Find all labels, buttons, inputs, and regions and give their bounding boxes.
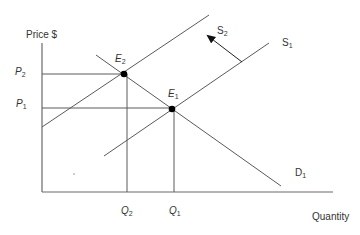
equilibrium-point-e2 [121,71,128,78]
equilibrium-label-e2: E2 [115,54,126,65]
price-label-p1: P1 [16,99,27,110]
shift-arrow-icon [208,36,242,62]
y-axis-label: Price $ [26,30,57,40]
supply-label-s2: S2 [217,26,228,37]
supply-label-s1: S1 [282,38,293,49]
equilibrium-label-e1: E1 [168,89,179,100]
equilibrium-point-e1 [169,106,176,113]
stray-dot [73,173,74,174]
quantity-label-q1: Q1 [169,206,181,217]
supply-curve-s2 [42,15,209,127]
price-label-p2: P2 [15,67,26,78]
supply-curve-s1 [104,43,269,156]
quantity-label-q2: Q2 [121,206,133,217]
demand-label-d1: D1 [295,168,306,179]
x-axis-label: Quantity [312,212,349,222]
